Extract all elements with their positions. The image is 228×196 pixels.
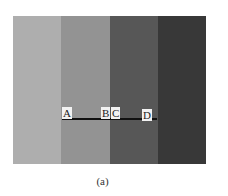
- gray-bar-2: [61, 16, 110, 164]
- gray-step-figure: [13, 16, 206, 164]
- point-label-d: D: [142, 109, 152, 121]
- point-label-c: C: [111, 107, 120, 119]
- gray-bar-1: [13, 16, 61, 164]
- point-label-a: A: [62, 107, 72, 119]
- figure-caption: (a): [0, 175, 205, 187]
- gray-bar-3: [110, 16, 158, 164]
- point-label-b: B: [101, 107, 110, 119]
- gray-bar-4: [158, 16, 206, 164]
